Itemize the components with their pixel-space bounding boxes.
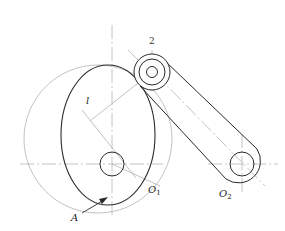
follower-number-label: 2: [149, 36, 155, 46]
pivot-center-letter: O: [219, 188, 227, 199]
pivot-center-subscript: 2: [227, 193, 231, 201]
pivot-end-arc: [226, 149, 260, 183]
cam-center-subscript: 1: [156, 189, 160, 197]
link-upper-edge: [164, 60, 257, 149]
arrow-head-icon: [99, 197, 108, 204]
cam-center-letter: O: [148, 184, 156, 195]
contact-point-label-a: A: [70, 212, 78, 223]
hub-to-link-line: [112, 164, 160, 186]
normal-line: [82, 110, 136, 178]
pivot-center-label: O2: [219, 188, 232, 201]
cam-center-label: O1: [148, 184, 161, 197]
roller: [134, 54, 170, 90]
radius-label-l: l: [86, 95, 89, 106]
mechanism-diagram: 2 l O1 O2 A: [0, 0, 285, 231]
link-lower-edge: [140, 86, 226, 179]
